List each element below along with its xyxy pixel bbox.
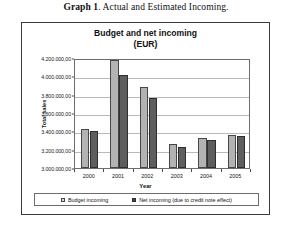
- x-axis-tick-label: 2001: [112, 173, 124, 179]
- bar[interactable]: [237, 136, 246, 168]
- x-axis-tick-mark: [74, 169, 75, 172]
- y-axis-tick-label: 3.600.000,00: [41, 111, 71, 117]
- bar[interactable]: [119, 75, 128, 168]
- y-axis-tick-mark: [72, 59, 74, 60]
- bar-group: [222, 60, 251, 168]
- y-axis-tick-mark: [72, 132, 74, 133]
- chart-container: Budget and net incoming (EUR) Total sale…: [21, 22, 270, 215]
- figure-caption: Graph 1. Actual and Estimated Incoming.: [0, 2, 292, 12]
- y-axis-tick-label: 3.800.000,00: [41, 93, 71, 99]
- bars-layer: [75, 60, 249, 168]
- figure-caption-text: . Actual and Estimated Incoming.: [98, 2, 228, 12]
- x-axis-tick-label: 2002: [141, 173, 153, 179]
- bar-group: [192, 60, 221, 168]
- x-axis-title: Year: [22, 183, 269, 189]
- x-axis-tick-mark: [162, 169, 163, 172]
- bar[interactable]: [81, 129, 90, 168]
- chart-title: Budget and net incoming (EUR): [22, 28, 269, 49]
- legend-item[interactable]: Budget incoming: [61, 197, 108, 203]
- y-axis-tick-label: 4.000.000,00: [41, 74, 71, 80]
- bar[interactable]: [169, 144, 178, 168]
- bar-group: [163, 60, 192, 168]
- plot-area: [74, 59, 250, 169]
- x-axis-tick-mark: [250, 169, 251, 172]
- bar[interactable]: [198, 138, 207, 168]
- x-axis-tick-mark: [133, 169, 134, 172]
- x-axis-tick-label: 2003: [171, 173, 183, 179]
- x-axis-tick-label: 2005: [229, 173, 241, 179]
- bar[interactable]: [140, 87, 149, 168]
- y-axis-tick-mark: [72, 77, 74, 78]
- chart-legend: Budget incomingNet incoming (due to cred…: [34, 193, 259, 206]
- y-axis-tick-label: 4.200.000,00: [41, 56, 71, 62]
- bar-group: [104, 60, 133, 168]
- y-axis-tick-label: 3.200.000,00: [41, 148, 71, 154]
- plot-wrapper: Total sales 3.000.000,003.200.000,003.40…: [74, 59, 250, 169]
- bar[interactable]: [228, 135, 237, 168]
- x-axis-tick-mark: [191, 169, 192, 172]
- y-axis-tick-mark: [72, 95, 74, 96]
- bar[interactable]: [149, 98, 158, 168]
- x-axis-tick-mark: [103, 169, 104, 172]
- bar[interactable]: [110, 60, 119, 168]
- x-axis-tick-label: 2004: [200, 173, 212, 179]
- legend-label: Net incoming (due to credit note effect): [139, 197, 232, 203]
- y-axis-tick-label: 3.400.000,00: [41, 129, 71, 135]
- legend-label: Budget incoming: [68, 197, 108, 203]
- y-axis-tick-label: 3.000.000,00: [41, 166, 71, 172]
- bar-group: [75, 60, 104, 168]
- y-axis-tick-mark: [72, 150, 74, 151]
- legend-swatch-icon: [61, 198, 65, 202]
- bar[interactable]: [178, 147, 187, 168]
- y-axis-tick-mark: [72, 114, 74, 115]
- bar[interactable]: [90, 131, 99, 168]
- x-axis-tick-label: 2000: [83, 173, 95, 179]
- legend-item[interactable]: Net incoming (due to credit note effect): [132, 197, 232, 203]
- bar-group: [134, 60, 163, 168]
- bar[interactable]: [207, 140, 216, 168]
- figure-caption-label: Graph 1: [63, 2, 98, 12]
- x-axis-tick-mark: [221, 169, 222, 172]
- legend-swatch-icon: [132, 198, 136, 202]
